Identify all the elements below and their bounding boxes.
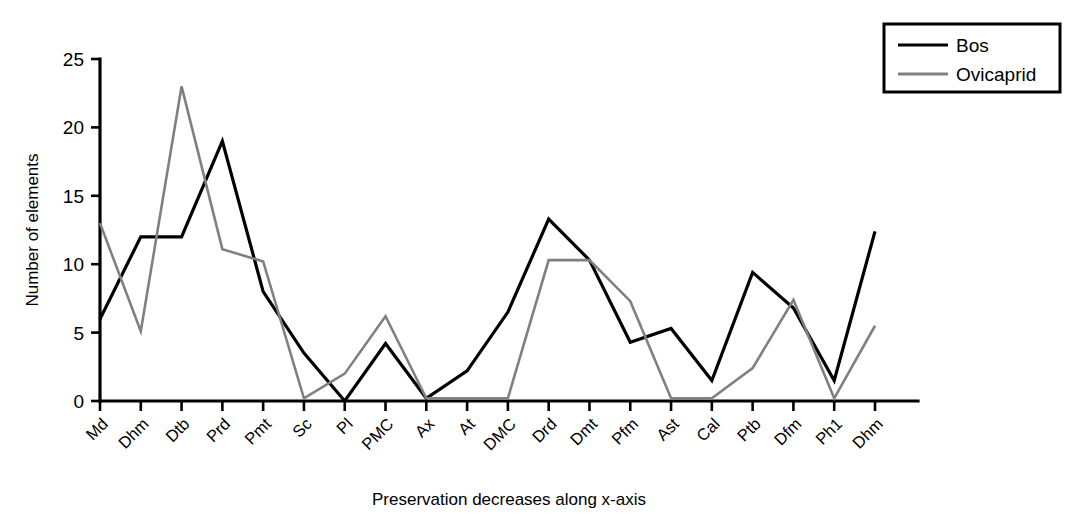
x-tick-label-12: Dmt (566, 414, 600, 448)
x-tick-label-7: PMC (358, 414, 397, 453)
x-tick-label-1: Dhm (115, 414, 152, 451)
legend: Bos Ovicaprid (884, 24, 1060, 92)
y-axis-title: Number of elements (23, 153, 42, 306)
x-tick-label-18: Ph1 (812, 414, 845, 447)
x-axis-title: Preservation decreases along x-axis (372, 490, 646, 509)
y-tick-label-10: 10 (63, 254, 84, 275)
y-axis-title-group: Number of elements (23, 153, 42, 306)
y-tick-label-0: 0 (73, 391, 84, 412)
x-tick-label-8: Ax (411, 414, 438, 441)
x-tick-label-6: Pl (333, 414, 356, 437)
x-tick-label-16: Ptb (734, 414, 764, 444)
x-tick-label-10: DMC (480, 414, 519, 453)
x-tick-label-2: Dtb (162, 414, 193, 445)
x-axis (100, 401, 918, 411)
line-chart: Number of elements 0510152025 MdDhmDtbPr… (0, 0, 1072, 532)
x-tick-label-13: Pfm (608, 414, 641, 447)
y-tick-label-25: 25 (63, 49, 84, 70)
x-tick-label-group: MdDhmDtbPrdPmtScPlPMCAxAtDMCDrdDmtPfmAst… (82, 414, 886, 454)
x-tick-label-11: Drd (528, 414, 560, 446)
chart-container: Number of elements 0510152025 MdDhmDtbPr… (0, 0, 1072, 532)
x-tick-label-17: Dfm (770, 414, 804, 448)
y-axis: 0510152025 (63, 49, 100, 412)
x-tick-label-19: Dhm (849, 414, 886, 451)
legend-label-ovicaprid: Ovicaprid (956, 64, 1036, 85)
x-tick-label-14: Ast (653, 414, 683, 444)
series-line-ovicaprid (100, 86, 875, 398)
y-tick-label-15: 15 (63, 186, 84, 207)
x-tick-label-0: Md (82, 414, 111, 443)
x-tick-label-5: Sc (289, 414, 315, 440)
series-group (100, 86, 875, 401)
x-tick-label-4: Pmt (241, 414, 275, 448)
x-tick-label-15: Cal (693, 414, 723, 444)
y-tick-group: 0510152025 (63, 49, 100, 412)
y-tick-label-20: 20 (63, 117, 84, 138)
series-line-bos (100, 141, 875, 401)
x-tick-label-3: Prd (203, 414, 234, 445)
x-tick-label-9: At (454, 414, 478, 438)
y-tick-label-5: 5 (73, 323, 84, 344)
legend-label-bos: Bos (956, 35, 989, 56)
